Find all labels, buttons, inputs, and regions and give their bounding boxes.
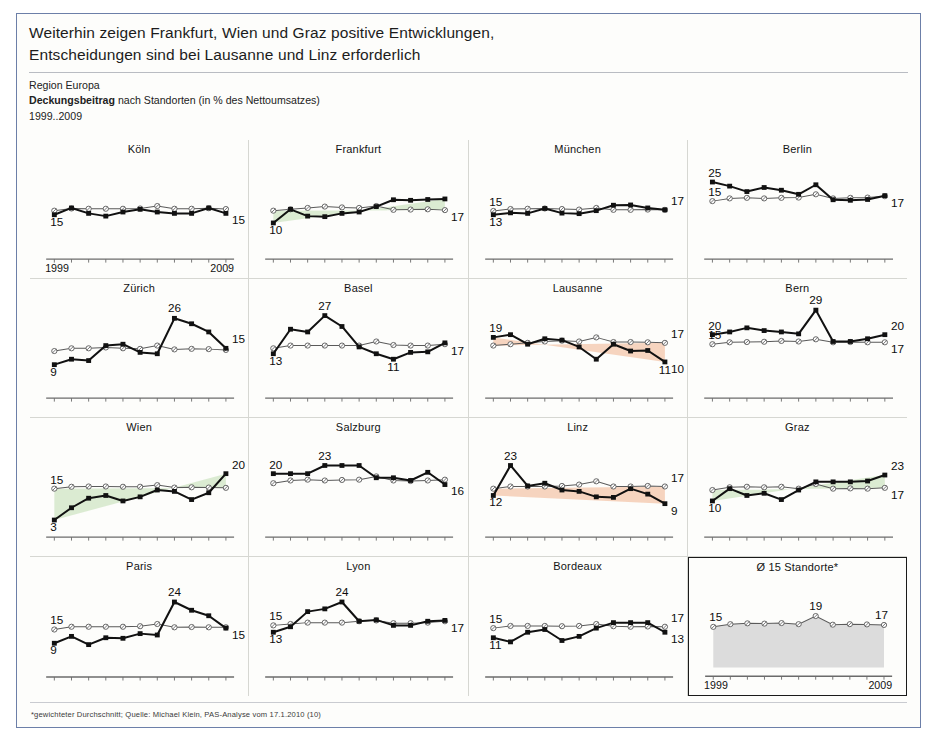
panel-plot: 32015 [38,435,242,552]
actual-marker [610,342,615,347]
actual-marker [559,338,564,343]
actual-marker [172,316,177,321]
actual-marker [305,609,310,614]
label-right-reference: 17 [451,211,464,223]
actual-marker [138,494,143,499]
actual-marker [189,321,194,326]
label-peak: 23 [319,450,332,462]
panel-title: Berlin [688,143,907,155]
actual-marker [323,313,328,318]
label-left-reference: 15 [708,185,721,198]
panel-lyon[interactable]: Lyon13241517 [249,557,468,696]
panel-plot: 131517 [477,157,681,274]
actual-marker [138,631,143,636]
actual-marker [172,211,177,216]
label-right-reference: 17 [671,328,684,340]
panel-title: Linz [469,421,687,433]
actual-marker [155,633,160,638]
panel-basel[interactable]: Basel13271117 [249,279,468,418]
panel-bern[interactable]: Bern2020291517 [688,279,907,418]
panel-bordeaux[interactable]: Bordeaux11131517 [469,557,688,696]
actual-line [274,602,446,632]
actual-marker [121,636,126,641]
actual-marker [796,192,801,197]
label-left-actual: 11 [489,638,501,651]
actual-marker [727,330,732,335]
actual-marker [443,340,448,345]
panel-k-ln[interactable]: Köln151519992009 [30,140,249,279]
actual-marker [779,497,784,502]
panel-plot: 251517 [696,157,901,274]
label-low: 11 [388,361,400,373]
actual-marker [189,497,194,502]
panel-z-rich[interactable]: Zürich91526 [30,279,249,418]
actual-marker [443,618,448,623]
panel-berlin[interactable]: Berlin251517 [688,140,907,279]
label-left-actual: 3 [50,521,57,533]
header-region: Region Europa [29,78,908,93]
actual-marker [340,600,345,605]
actual-marker [443,482,448,487]
label-left-actual: 20 [270,459,283,471]
actual-marker [426,349,431,354]
label-right-actual: 10 [671,363,684,375]
panel-title: Basel [249,282,467,294]
actual-marker [593,626,598,631]
panel-salzburg[interactable]: Salzburg201623 [249,418,468,557]
label-right-reference: 17 [891,196,904,209]
panel-lausanne[interactable]: Lausanne19101117 [469,279,688,418]
panel-m-nchen[interactable]: München131517 [469,140,688,279]
panel-15-standorte[interactable]: Ø 15 Standorte*15171919992009 [688,557,907,696]
label-peak: 19 [809,600,822,612]
actual-marker [542,206,547,211]
actual-line [274,316,446,360]
actual-marker [848,479,853,484]
actual-marker [525,484,530,489]
actual-marker [848,339,853,344]
actual-marker [796,331,801,336]
actual-marker [830,479,835,484]
actual-marker [357,345,362,350]
panel-plot: 151519992009 [38,157,242,274]
panel-title: Bordeaux [469,560,687,572]
actual-marker [206,490,211,495]
actual-marker [576,211,581,216]
actual-marker [813,308,818,313]
label-peak: 24 [168,585,182,598]
actual-marker [610,620,615,625]
actual-marker [662,501,667,506]
panel-linz[interactable]: Linz1292317 [469,418,688,557]
actual-marker [628,620,633,625]
actual-marker [508,332,513,337]
panel-wien[interactable]: Wien32015 [30,418,249,557]
header-metric: Deckungsbeitrag nach Standorten (in % de… [29,93,908,108]
actual-marker [374,351,379,356]
actual-marker [662,630,667,635]
panel-plot: 11131517 [477,574,681,692]
panel-paris[interactable]: Paris9152415 [30,557,249,696]
label-right-actual: 13 [671,632,684,645]
label-right-reference: 17 [451,621,464,634]
actual-marker [761,328,766,333]
label-right-reference: 17 [671,195,684,207]
actual-marker [542,481,547,486]
actual-marker [542,627,547,632]
actual-marker [323,606,328,611]
actual-marker [610,495,615,500]
footnote: *gewichteter Durchschnitt; Quelle: Micha… [31,710,321,719]
actual-marker [865,479,870,484]
actual-marker [662,207,667,212]
actual-marker [340,324,345,329]
panel-graz[interactable]: Graz102317 [688,418,907,557]
panel-plot: 91526 [38,296,242,413]
actual-marker [710,180,715,185]
panel-frankfurt[interactable]: Frankfurt1017 [249,140,468,279]
actual-marker [223,346,228,351]
actual-marker [172,489,177,494]
actual-marker [155,488,160,493]
actual-marker [155,210,160,215]
panel-grid: Köln151519992009Frankfurt1017München1315… [30,140,907,696]
actual-marker [882,473,887,478]
actual-marker [138,207,143,212]
actual-marker [189,608,194,613]
